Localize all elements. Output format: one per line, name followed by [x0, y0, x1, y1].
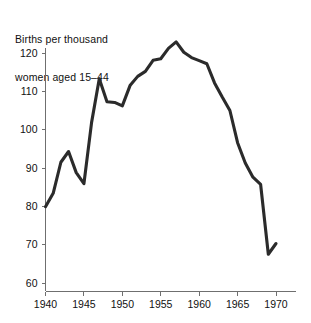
birth-rate-line: [46, 42, 277, 254]
y-tick-label: 110: [21, 85, 38, 97]
y-tick-label: 100: [20, 123, 38, 135]
x-tick-label: 1970: [264, 298, 288, 310]
x-tick-label: 1965: [226, 298, 250, 310]
y-tick-label: 120: [20, 47, 38, 59]
y-tick-label: 60: [26, 277, 38, 289]
x-tick-labels: 1940194519501955196019651970: [34, 298, 288, 310]
y-ticks: [42, 53, 46, 283]
plot-area: 60708090100110120 1940194519501955196019…: [0, 0, 311, 323]
x-tick-label: 1960: [187, 298, 211, 310]
x-tick-label: 1955: [149, 298, 173, 310]
y-tick-label: 90: [26, 162, 38, 174]
y-tick-label: 70: [26, 238, 38, 250]
x-tick-label: 1950: [111, 298, 135, 310]
y-tick-labels: 60708090100110120: [20, 47, 38, 289]
x-tick-label: 1945: [72, 298, 96, 310]
y-axis: 60708090100110120: [20, 47, 46, 291]
x-tick-label: 1940: [34, 298, 58, 310]
birth-rate-chart: Births per thousand women aged 15–44 607…: [0, 0, 311, 323]
x-axis: 1940194519501955196019651970: [34, 292, 296, 311]
x-ticks: [46, 292, 277, 296]
y-tick-label: 80: [26, 200, 38, 212]
